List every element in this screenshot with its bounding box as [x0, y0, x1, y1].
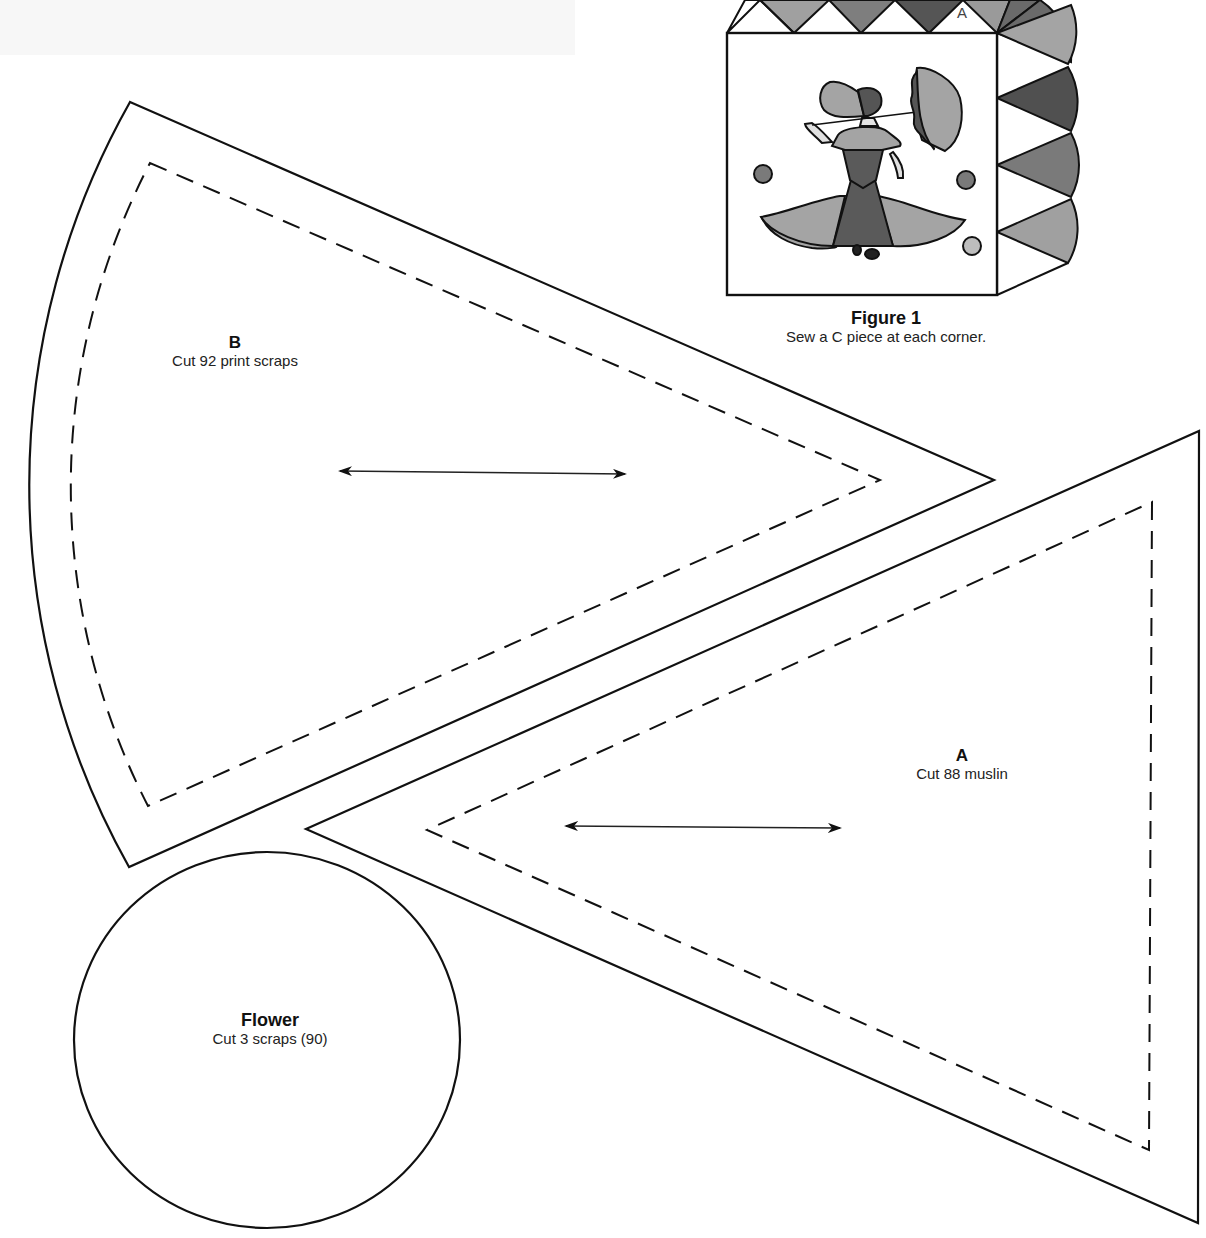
right-border-wedges [997, 0, 1079, 295]
figure-1-illustration [727, 0, 1079, 295]
piece-a-label: A Cut 88 muslin [862, 747, 1062, 782]
pattern-canvas [0, 0, 1206, 1238]
figure-caption-text: Sew a C piece at each corner. [740, 329, 1032, 346]
piece-a-grain-arrow [566, 826, 840, 828]
figure-title: Figure 1 [740, 309, 1032, 329]
piece-b-grain-arrow [340, 471, 625, 474]
flower-name: Flower [170, 1011, 370, 1031]
figure-piece-label-a: A [957, 4, 967, 21]
piece-b-instruction: Cut 92 print scraps [135, 353, 335, 370]
top-border-row [727, 0, 1010, 33]
piece-b-label: B Cut 92 print scraps [135, 334, 335, 369]
piece-a-instruction: Cut 88 muslin [862, 766, 1062, 783]
flower-instruction: Cut 3 scraps (90) [170, 1031, 370, 1048]
figure-1-caption: Figure 1 Sew a C piece at each corner. [740, 309, 1032, 345]
piece-a-seam-line [427, 502, 1152, 1150]
flower-label: Flower Cut 3 scraps (90) [170, 1011, 370, 1047]
piece-a-name: A [862, 747, 1062, 766]
piece-b-name: B [135, 334, 335, 353]
piece-a-template [306, 431, 1199, 1223]
